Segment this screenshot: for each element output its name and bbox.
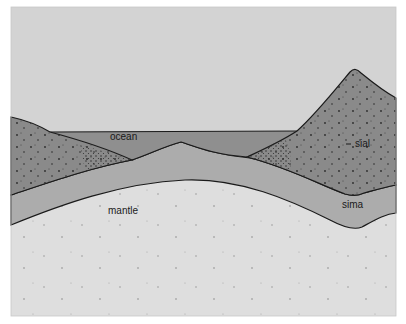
sima-label: sima [342,199,364,210]
crust-cross-section-diagram: ocean sial sima mantle [0,0,406,324]
mantle-label: mantle [108,205,138,216]
ocean-label: ocean [110,131,137,142]
sial-label: sial [355,138,370,149]
